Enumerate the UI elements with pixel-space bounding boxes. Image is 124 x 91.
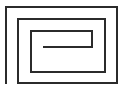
rectangular-spiral-drawing	[0, 0, 124, 91]
spiral-figure-container	[0, 0, 124, 91]
